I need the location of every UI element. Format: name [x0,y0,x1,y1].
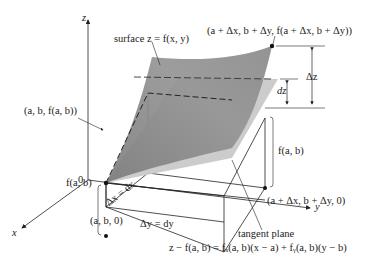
f-ab-left-brace [98,185,101,235]
point-a-dx-b-dy-0 [263,186,267,190]
point-base-right-label: (a + Δx, b + Δy, 0) [267,196,345,207]
delta-y-label: Δy = dy [140,219,174,230]
tangent-plane-leader [232,160,262,230]
f-ab-right-brace [270,117,273,187]
z-axis-label: z [82,13,86,24]
differential-diagram: z y x 0 surface z = f(x, y) (a, b, f(a, … [0,0,370,257]
point-top-right-label: (a + Δx, b + Δy, f(a + Δx, b + Δy)) [207,26,352,37]
point-top-left-label: (a, b, f(a, b)) [24,106,77,117]
f-ab-right-label: f(a, b) [278,146,304,157]
x-axis-label: x [12,228,17,239]
delta-z-label: Δz [306,72,317,83]
point-top-right-leader [273,36,275,44]
point-a-dx-b-dy-f [270,44,274,48]
box-back-bottom-edge [148,173,265,188]
point-a-b-fab [104,181,108,185]
surface-label: surface z = f(x, y) [114,34,189,45]
point-a-b-fab-leader [78,118,103,130]
point-a-b-0 [104,234,108,238]
point-base-left-label: (a, b, 0) [90,216,123,227]
tangent-plane-label: tangent plane [238,229,294,240]
dz-label: dz [277,86,286,97]
f-ab-left-label: f(a, b) [66,178,92,189]
tangent-equation: z − f(a, b) = fₓ(a, b)(x − a) + fᵧ(a, b)… [169,243,347,254]
